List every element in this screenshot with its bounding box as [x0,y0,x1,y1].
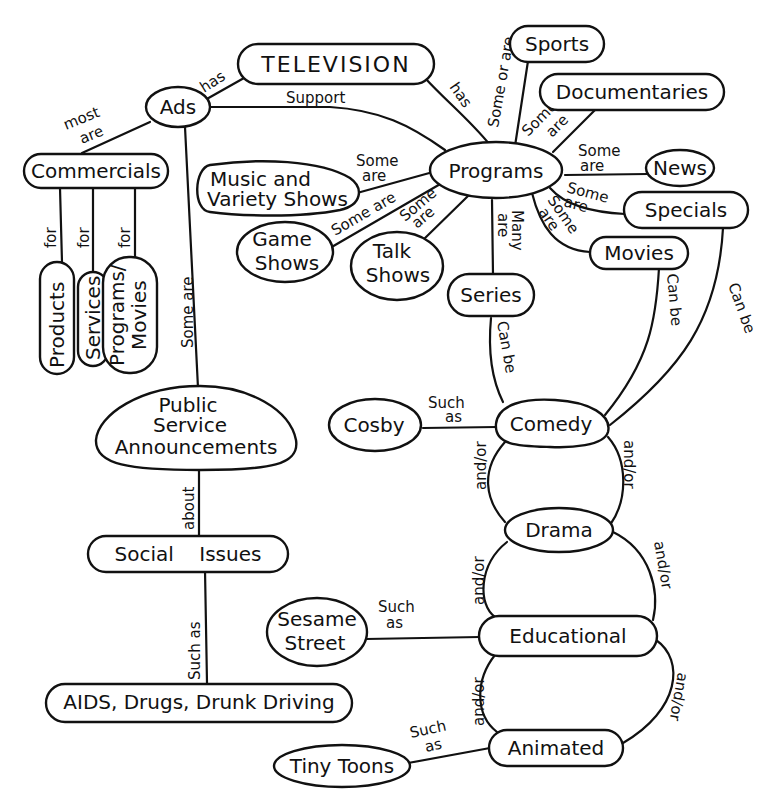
node-programs-label: Programs [449,159,544,183]
edge-programs-news [565,174,648,175]
label-for-products: for [42,227,60,248]
concept-map: has Support has most are for for for Som… [0,0,770,803]
node-animated-label: Animated [508,736,605,760]
node-psa-label-3: Announcements [115,435,278,459]
node-educational[interactable]: Educational [479,616,657,656]
edge-tinytoons-animated [408,748,490,763]
node-series[interactable]: Series [448,274,534,316]
node-programs[interactable]: Programs [430,142,562,198]
node-documentaries[interactable]: Documentaries [540,74,724,110]
node-animated[interactable]: Animated [489,730,623,766]
node-programs-movies-label-2: Movies [127,280,151,350]
node-products-label: Products [45,282,69,368]
node-aids-label: AIDS, Drugs, Drunk Driving [63,690,334,714]
label-andor-6: and/or [665,671,691,723]
edge-commercials-products [60,188,62,262]
edge-ads-programs [210,107,445,150]
edge-programs-series [492,200,493,275]
node-tiny-toons[interactable]: Tiny Toons [274,745,410,787]
node-music-variety-label-2: Variety Shows [207,187,348,211]
node-talk-shows-label-2: Shows [366,263,430,287]
label-some-are-psa: Some are [179,276,197,348]
node-tiny-toons-label: Tiny Toons [289,754,394,778]
node-programs-movies[interactable]: Programs/ Movies [103,257,157,373]
node-documentaries-label: Documentaries [556,80,708,104]
label-has-2: has [446,79,476,111]
node-movies[interactable]: Movies [590,237,688,269]
label-as-sesame: as [386,614,403,632]
node-talk-shows-label-1: Talk [372,239,412,263]
label-andor-1: and/or [472,441,490,490]
node-sesame-street-label-2: Street [285,631,346,655]
node-drama[interactable]: Drama [505,508,613,552]
node-specials[interactable]: Specials [624,192,748,228]
label-andor-2: and/or [620,440,638,489]
node-commercials-label: Commercials [31,159,161,183]
label-can-be-series: Can be [493,320,520,375]
label-andor-5: and/or [470,677,488,726]
node-series-label: Series [460,283,522,307]
label-are-series: are [494,213,512,237]
label-andor-3: and/or [470,556,488,605]
node-movies-label: Movies [604,241,674,265]
node-programs-movies-label-1: Programs/ [105,264,129,366]
node-ads-label: Ads [160,95,196,119]
node-television-label: TELEVISION [260,52,410,77]
node-cosby[interactable]: Cosby [329,399,421,451]
edge-sesame-educational [366,637,480,639]
node-television[interactable]: TELEVISION [238,44,434,84]
label-can-be-specials: Can be [724,280,759,336]
node-psa[interactable]: Public Service Announcements [96,386,296,470]
label-as-cosby: as [445,408,462,426]
label-are-news: are [580,157,604,175]
node-drama-label: Drama [525,518,593,542]
node-aids[interactable]: AIDS, Drugs, Drunk Driving [46,684,352,722]
node-news[interactable]: News [646,150,714,186]
edge-social-aids [205,570,207,683]
label-are-music: are [362,167,386,185]
node-game-shows-label-1: Game [252,227,312,251]
node-comedy[interactable]: Comedy [496,400,609,448]
label-can-be-movies: Can be [663,273,686,327]
node-social-issues-label: Social Issues [115,542,262,566]
node-commercials[interactable]: Commercials [24,154,168,188]
node-specials-label: Specials [645,198,727,222]
node-sesame-street[interactable]: Sesame Street [267,598,367,666]
label-such-as-social: Such as [186,621,204,680]
node-sports[interactable]: Sports [510,26,604,62]
node-psa-label-2: Service [153,413,227,437]
node-music-variety[interactable]: Music and Variety Shows [197,161,359,215]
node-sports-label: Sports [525,32,589,56]
node-services-label: Services [81,276,105,360]
node-ads[interactable]: Ads [146,87,210,127]
edge-comedy-drama-left [488,442,505,522]
node-news-label: News [653,156,707,180]
label-support: Support [286,89,345,107]
nodes: TELEVISION Ads Commercials Products Serv… [24,26,748,787]
label-for-programs: for [116,227,134,248]
node-game-shows-label-2: Shows [255,251,319,275]
node-comedy-label: Comedy [510,412,593,436]
node-talk-shows[interactable]: Talk Shows [351,232,443,300]
label-as-tinytoons: as [423,735,444,756]
node-educational-label: Educational [509,624,626,648]
node-cosby-label: Cosby [343,413,404,437]
node-sesame-street-label-1: Sesame [277,607,356,631]
node-social-issues[interactable]: Social Issues [88,536,288,572]
edge-drama-educational-right [613,532,655,620]
label-for-services: for [75,227,93,248]
label-about: about [180,487,198,530]
edge-movies-comedy [605,268,659,415]
node-products[interactable]: Products [40,262,74,374]
edge-cosby-comedy [423,427,497,428]
node-game-shows[interactable]: Game Shows [237,222,333,282]
